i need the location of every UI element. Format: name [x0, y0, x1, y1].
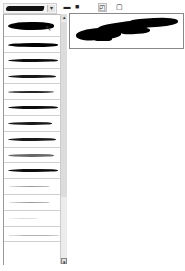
mouse-cursor-icon: ↖ [45, 24, 52, 33]
brush-list-item[interactable] [4, 163, 60, 179]
brush-list-item[interactable] [4, 37, 60, 53]
scroll-thumb[interactable] [61, 22, 67, 197]
brush-stroke-preview [8, 106, 58, 109]
brush-list-item[interactable] [4, 148, 60, 164]
brush-list-item[interactable] [4, 211, 60, 227]
chevron-down-icon[interactable]: ▾ [47, 5, 55, 12]
brush-list-item[interactable] [4, 195, 60, 211]
scroll-down-button[interactable]: ▾ [61, 258, 67, 264]
new-preset-icon[interactable]: ◰ [98, 3, 107, 12]
selected-brush-stroke [6, 6, 45, 11]
brush-list-item[interactable] [4, 69, 60, 85]
brush-stroke-preview [8, 169, 58, 172]
brush-stroke-preview [8, 91, 54, 93]
brush-stroke-preview [8, 138, 56, 141]
preview-stroke [130, 16, 179, 28]
brush-stroke-preview [8, 235, 60, 236]
preview-stroke [120, 27, 150, 35]
brush-stroke-preview [8, 122, 52, 125]
brush-list-item[interactable] [4, 100, 60, 116]
scrollbar[interactable]: ▴ ▾ [60, 14, 67, 264]
scroll-up-button[interactable]: ▴ [61, 14, 67, 20]
brush-preset-dropdown[interactable]: ▾ [3, 3, 57, 14]
stroke-preview [69, 13, 184, 49]
brush-stroke-preview [8, 75, 56, 78]
brush-list-item[interactable] [4, 53, 60, 69]
brush-list-item[interactable] [4, 179, 60, 195]
brush-stroke-preview [8, 154, 54, 157]
brush-stroke-preview [8, 59, 58, 62]
brush-stroke-preview [8, 218, 38, 219]
brush-list-item[interactable] [4, 227, 60, 243]
preview-stroke [94, 34, 112, 41]
brush-list [3, 14, 60, 265]
open-folder-icon[interactable]: ▬ [63, 3, 71, 11]
brush-stroke-preview [8, 202, 50, 203]
brush-list-item[interactable] [4, 132, 60, 148]
brush-stroke-preview [8, 43, 58, 47]
brush-stroke-preview [8, 186, 50, 187]
toolbar: ▬■◰▢ [60, 2, 180, 13]
brush-list-item[interactable] [4, 116, 60, 132]
delete-icon[interactable]: ▢ [115, 3, 123, 11]
save-icon[interactable]: ■ [73, 3, 81, 11]
brush-list-item[interactable] [4, 84, 60, 100]
